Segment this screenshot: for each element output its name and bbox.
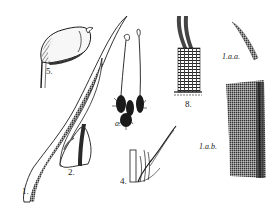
figure-a-plant: [112, 29, 147, 130]
figure-8-peristome: [174, 16, 202, 95]
botanical-plate: 5. 1. 2. a. 8. 1.a.a. 1.a.b. 4.: [0, 0, 278, 206]
plate-drawing: [0, 0, 278, 206]
label-figure-1: 1.: [22, 187, 29, 196]
label-figure-2: 2.: [68, 168, 75, 177]
label-figure-a: a.: [115, 120, 121, 128]
label-figure-8: 8.: [185, 100, 192, 109]
figure-1ab-cells: [226, 80, 266, 178]
label-figure-5: 5.: [46, 67, 53, 76]
label-figure-1aa: 1.a.a.: [222, 53, 240, 61]
figure-5-capsule: [41, 27, 93, 88]
figure-4-perichaetium: [130, 126, 176, 182]
label-figure-4: 4.: [120, 177, 127, 186]
label-figure-1ab: 1.a.b.: [199, 143, 217, 151]
